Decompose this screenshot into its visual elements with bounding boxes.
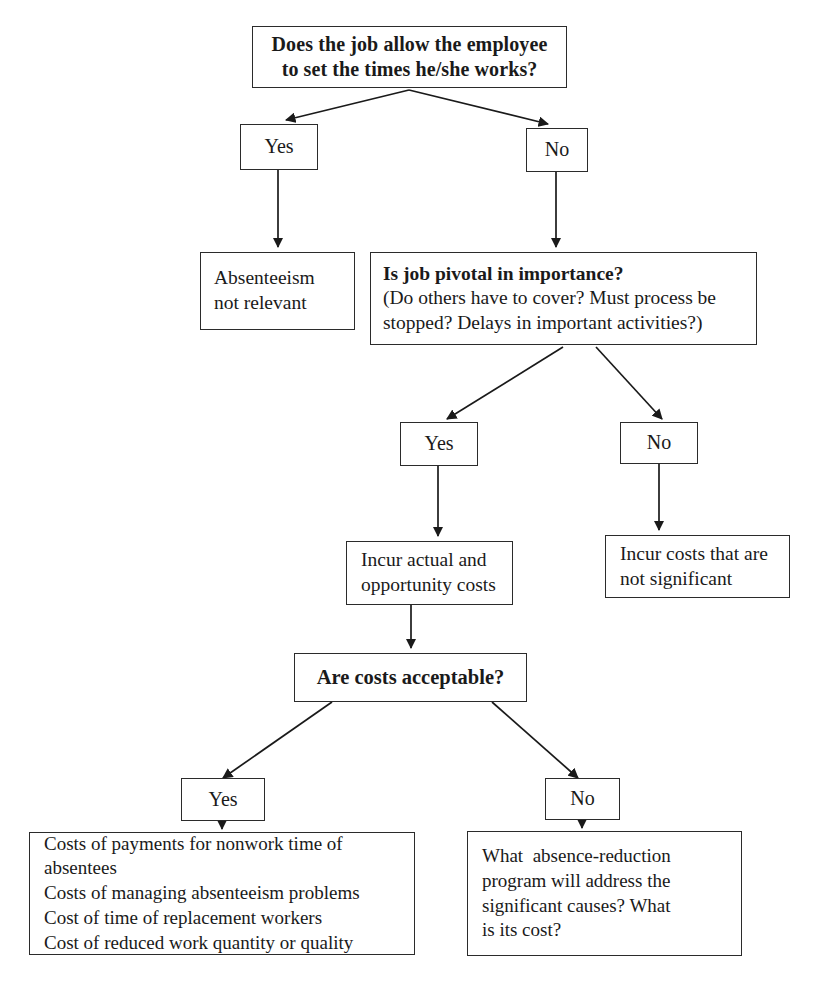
outcome-cost-breakdown-list[interactable]: Costs of payments for nonwork time of ab… (29, 832, 415, 955)
question-job-pivotal[interactable]: Is job pivotal in importance? (Do others… (370, 252, 757, 345)
outcome-not-relevant-line-2: not relevant (214, 291, 307, 316)
question-pivotal-heading: Is job pivotal in importance? (383, 262, 624, 287)
decision-q1-yes-label: Yes (264, 134, 293, 159)
decision-q1-no[interactable]: No (526, 128, 588, 172)
edge-acceptable-to-yes (223, 702, 332, 778)
edge-pivotal-to-no (596, 347, 662, 419)
reduction-program-line-3: significant causes? What (482, 894, 671, 919)
edge-q1-to-yes (286, 90, 409, 120)
outcome-incur-actual-line-2: opportunity costs (361, 573, 496, 598)
question-pivotal-line-2: stopped? Delays in important activities?… (383, 311, 703, 336)
decision-q2-no-label: No (647, 430, 671, 455)
cost-list-item-4: Cost of reduced work quantity or quality (44, 931, 353, 956)
edge-pivotal-to-yes (447, 347, 563, 419)
question-pivotal-line-1: (Do others have to cover? Must process b… (383, 286, 716, 311)
question-job-flexible-hours[interactable]: Does the job allow the employee to set t… (252, 26, 567, 88)
question-line-2: to set the times he/she works? (282, 57, 538, 82)
outcome-not-relevant-line-1: Absenteeism (214, 266, 315, 291)
question-costs-acceptable-label: Are costs acceptable? (317, 665, 504, 691)
outcome-absenteeism-not-relevant[interactable]: Absenteeism not relevant (200, 252, 355, 330)
decision-q2-no[interactable]: No (620, 422, 698, 464)
outcome-incur-actual-costs[interactable]: Incur actual and opportunity costs (346, 541, 513, 605)
outcome-not-significant-line-1: Incur costs that are (620, 542, 768, 567)
decision-q2-yes-label: Yes (424, 431, 453, 456)
cost-list-item-3: Cost of time of replacement workers (44, 906, 322, 931)
outcome-incur-actual-line-1: Incur actual and (361, 548, 487, 573)
decision-q2-yes[interactable]: Yes (400, 422, 478, 466)
decision-q3-yes[interactable]: Yes (181, 778, 265, 821)
flowchart-canvas: Does the job allow the employee to set t… (0, 0, 815, 994)
outcome-incur-not-significant[interactable]: Incur costs that are not significant (605, 535, 790, 598)
edge-acceptable-to-no (492, 702, 578, 778)
cost-list-item-1-cont: absentees (44, 856, 117, 881)
cost-list-item-1: Costs of payments for nonwork time of (44, 832, 343, 857)
question-costs-acceptable[interactable]: Are costs acceptable? (294, 653, 527, 702)
reduction-program-line-2: program will address the (482, 869, 670, 894)
decision-q3-no-label: No (570, 786, 594, 811)
question-line-1: Does the job allow the employee (272, 32, 548, 57)
decision-q1-yes[interactable]: Yes (240, 124, 318, 170)
outcome-not-significant-line-2: not significant (620, 567, 732, 592)
decision-q3-no[interactable]: No (545, 778, 620, 820)
decision-q1-no-label: No (545, 137, 569, 162)
reduction-program-line-4: is its cost? (482, 918, 561, 943)
decision-q3-yes-label: Yes (208, 787, 237, 812)
outcome-absence-reduction-program[interactable]: What absence-reduction program will addr… (467, 831, 742, 956)
reduction-program-line-1: What absence-reduction (482, 844, 671, 869)
edge-q1-to-no (409, 90, 548, 124)
cost-list-item-2: Costs of managing absenteeism problems (44, 881, 360, 906)
